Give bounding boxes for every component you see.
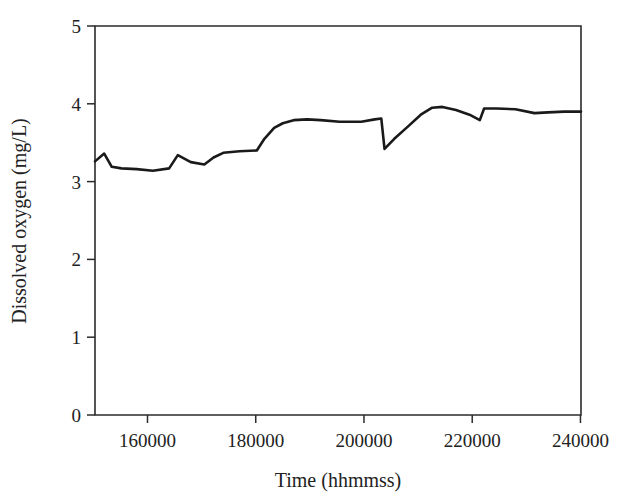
x-tick-label: 220000 bbox=[444, 430, 501, 451]
y-axis-title: Dissolved oxygen (mg/L) bbox=[8, 118, 31, 324]
x-tick-label: 160000 bbox=[119, 430, 176, 451]
y-tick-label: 5 bbox=[72, 16, 82, 37]
y-tick-label: 0 bbox=[72, 405, 82, 426]
y-tick-label: 3 bbox=[72, 172, 82, 193]
y-tick-label: 1 bbox=[72, 327, 82, 348]
x-axis-title: Time (hhmmss) bbox=[275, 469, 402, 492]
dissolved-oxygen-line-chart: 012345 160000180000200000220000240000 Ti… bbox=[0, 0, 634, 501]
y-tick-label: 2 bbox=[72, 249, 82, 270]
y-tick-label: 4 bbox=[72, 94, 82, 115]
chart-figure: 012345 160000180000200000220000240000 Ti… bbox=[0, 0, 634, 501]
x-tick-label: 200000 bbox=[335, 430, 392, 451]
x-tick-label: 180000 bbox=[227, 430, 284, 451]
x-tick-label: 240000 bbox=[552, 430, 609, 451]
